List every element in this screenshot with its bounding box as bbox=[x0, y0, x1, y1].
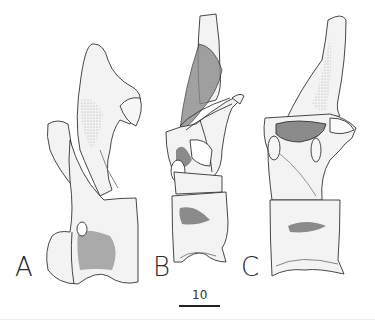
specimen-a bbox=[47, 44, 142, 284]
scale-bar-label: 10 bbox=[192, 289, 207, 301]
panel-label-b: B bbox=[153, 254, 170, 280]
specimen-c bbox=[264, 16, 356, 276]
specimen-b bbox=[166, 14, 244, 262]
divider bbox=[0, 319, 375, 320]
panel-label-a: A bbox=[15, 254, 33, 280]
figure: A B C 10 bbox=[0, 0, 375, 321]
vertebra-illustrations bbox=[0, 0, 375, 321]
scale-bar bbox=[179, 305, 220, 307]
panel-label-c: C bbox=[241, 254, 259, 280]
